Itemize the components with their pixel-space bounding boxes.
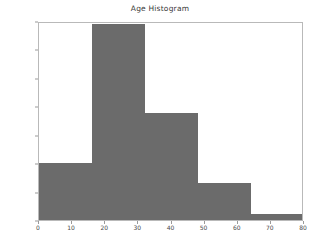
- x-tick-label: 20: [100, 224, 108, 231]
- histogram-bar: [39, 163, 92, 220]
- x-tick-label: 50: [200, 224, 208, 231]
- histogram-bar: [92, 24, 145, 220]
- y-tick-mark: [35, 78, 38, 79]
- y-tick-mark: [35, 164, 38, 165]
- plot-area: [38, 22, 303, 221]
- x-tick-label: 60: [233, 224, 241, 231]
- y-tick-mark: [35, 22, 38, 23]
- histogram-bar: [251, 214, 302, 220]
- y-tick-mark: [35, 50, 38, 51]
- x-tick-label: 30: [134, 224, 142, 231]
- x-tick-label: 80: [299, 224, 307, 231]
- x-tick-label: 0: [36, 224, 40, 231]
- histogram-figure: Age Histogram 05010015020025030035001020…: [0, 0, 320, 249]
- histogram-bar: [145, 113, 198, 220]
- x-tick-label: 10: [67, 224, 75, 231]
- y-tick-mark: [35, 107, 38, 108]
- bars-layer: [39, 23, 302, 220]
- chart-title: Age Histogram: [0, 4, 320, 13]
- x-tick-label: 70: [266, 224, 274, 231]
- x-tick-label: 40: [167, 224, 175, 231]
- y-tick-mark: [35, 135, 38, 136]
- y-tick-mark: [35, 192, 38, 193]
- histogram-bar: [198, 183, 251, 220]
